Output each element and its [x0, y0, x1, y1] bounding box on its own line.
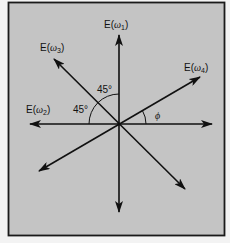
origin-point — [117, 122, 120, 125]
diagram-stage: E(ω1) E(ω3) E(ω4) E(ω2) 45° 45° ϕ — [0, 0, 230, 243]
label-e-omega-2: E(ω2) — [26, 104, 50, 116]
angle-label-phi: ϕ — [155, 110, 160, 121]
vector-diagram: E(ω1) E(ω3) E(ω4) E(ω2) 45° 45° ϕ — [0, 0, 230, 243]
angle-label-upper-45: 45° — [97, 84, 112, 95]
label-e-omega-1: E(ω1) — [104, 19, 128, 31]
label-e-omega-4: E(ω4) — [184, 62, 208, 74]
diagram-frame — [9, 3, 225, 236]
label-e-omega-3: E(ω3) — [40, 42, 64, 54]
angle-label-left-45: 45° — [73, 104, 88, 115]
